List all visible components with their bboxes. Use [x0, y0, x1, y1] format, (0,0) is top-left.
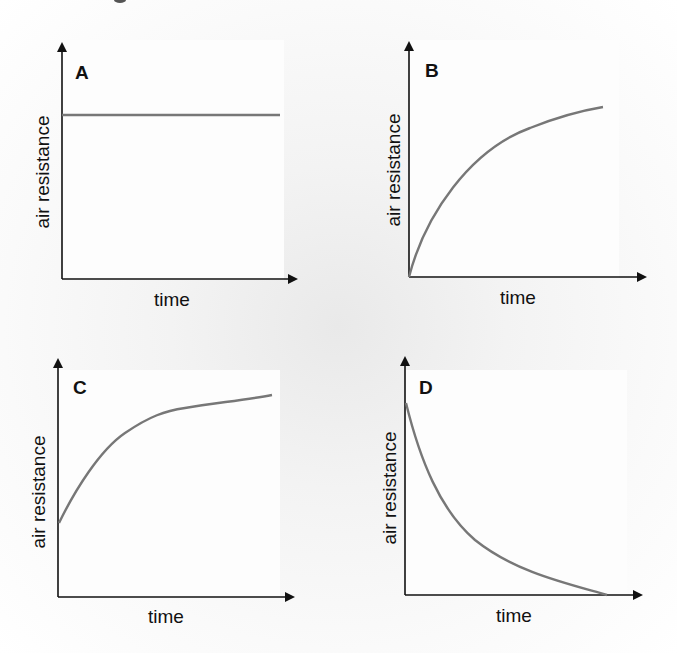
panel-label: C [73, 377, 87, 398]
data-curve [59, 395, 272, 523]
panel-label: A [75, 62, 89, 83]
panel-label: B [425, 60, 439, 81]
y-axis-label: air resistance [379, 432, 400, 545]
chart-panel-b: B time air resistance [383, 43, 645, 308]
data-curve [409, 107, 603, 277]
y-axis-label: air resistance [383, 114, 404, 227]
y-axis-label: air resistance [32, 116, 53, 229]
x-axis-label: time [154, 289, 190, 310]
x-axis-label: time [148, 606, 184, 627]
chart-panel-d: D time air resistance [379, 358, 641, 626]
figure-canvas: A time air resistance B time air resista… [0, 0, 677, 653]
chart-panel-a: A time air resistance [32, 44, 296, 310]
data-curve [406, 403, 607, 595]
y-axis-label: air resistance [28, 436, 49, 549]
x-axis-label: time [500, 287, 536, 308]
chart-panel-c: C time air resistance [28, 360, 293, 627]
panel-label: D [419, 377, 433, 398]
x-axis-label: time [496, 605, 532, 626]
cropped-glyph-fragment [114, 0, 126, 3]
